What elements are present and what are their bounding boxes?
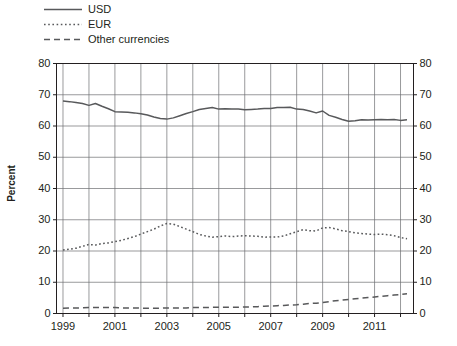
y-tick-left-40: 40 — [29, 182, 51, 194]
y-tick-left-70: 70 — [29, 88, 51, 100]
axis-ticks — [53, 64, 417, 318]
y-tick-right-70: 70 — [420, 88, 444, 100]
y-tick-left-30: 30 — [29, 213, 51, 225]
x-tick-2003: 2003 — [147, 320, 187, 332]
y-tick-right-30: 30 — [420, 213, 444, 225]
x-tick-2009: 2009 — [303, 320, 343, 332]
x-tick-2001: 2001 — [95, 320, 135, 332]
y-tick-right-0: 0 — [420, 307, 444, 319]
x-tick-1999: 1999 — [43, 320, 83, 332]
y-tick-left-0: 0 — [29, 307, 51, 319]
y-tick-left-10: 10 — [29, 275, 51, 287]
x-tick-2005: 2005 — [199, 320, 239, 332]
chart-plot-area — [0, 0, 457, 346]
y-tick-left-50: 50 — [29, 150, 51, 162]
y-tick-right-20: 20 — [420, 244, 444, 256]
y-tick-left-80: 80 — [29, 57, 51, 69]
y-tick-right-40: 40 — [420, 182, 444, 194]
x-tick-2007: 2007 — [251, 320, 291, 332]
y-tick-right-60: 60 — [420, 119, 444, 131]
chart-container: USD EUR Other currencies Percent 0102030… — [0, 0, 457, 346]
gridlines — [57, 64, 414, 314]
y-tick-right-10: 10 — [420, 275, 444, 287]
y-tick-left-20: 20 — [29, 244, 51, 256]
y-tick-right-80: 80 — [420, 57, 444, 69]
x-tick-2011: 2011 — [355, 320, 395, 332]
y-tick-right-50: 50 — [420, 150, 444, 162]
y-tick-left-60: 60 — [29, 119, 51, 131]
